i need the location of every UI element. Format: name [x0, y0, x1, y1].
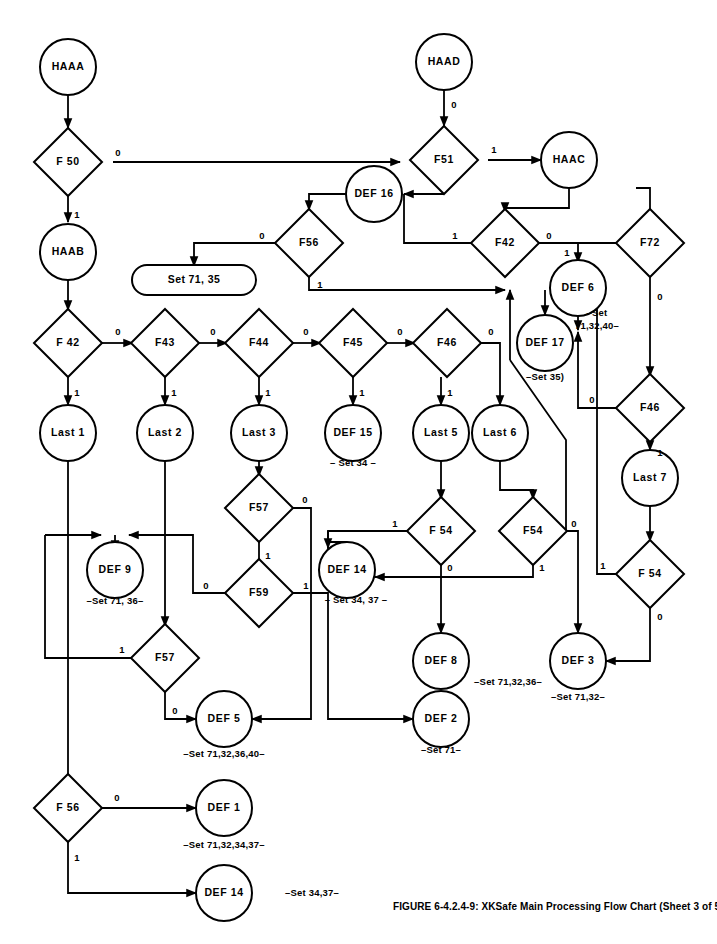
el-f43-1: 1	[171, 387, 177, 398]
ann-def15: – Set 34 –	[330, 457, 376, 468]
el-f56t-1: 1	[317, 279, 323, 290]
node-label-haad: HAAD	[428, 55, 461, 67]
node-label-f42t: F42	[495, 236, 515, 248]
el-f54a-1: 1	[392, 518, 398, 529]
el-f42t-1: 1	[452, 230, 458, 241]
edge-f54c-riser	[597, 290, 617, 574]
flowchart-canvas: HAAAF 50HAABHAADF51HAACDEF 16F56Set 71, …	[0, 0, 717, 944]
node-label-f46a: F46	[437, 336, 457, 348]
node-label-last5: Last 5	[424, 426, 458, 438]
node-label-last3: Last 3	[242, 426, 276, 438]
el-f42-0: 0	[115, 326, 120, 337]
ann-def14b: –Set 34,37–	[285, 887, 339, 898]
node-label-f57a: F57	[249, 501, 269, 513]
el-f54a-0: 0	[447, 562, 452, 573]
node-label-f43: F43	[155, 336, 175, 348]
ann-def5: –Set 71,32,36,40–	[183, 748, 265, 759]
el-f59-0: 0	[203, 580, 208, 591]
figure-caption: FIGURE 6-4.2.4-9: XKSafe Main Processing…	[393, 901, 713, 912]
node-label-def3: DEF 3	[562, 654, 595, 666]
el-f46b-0: 0	[589, 394, 594, 405]
edge-f56top-riser	[309, 277, 505, 290]
el-f44-0: 0	[303, 326, 308, 337]
node-label-f46b: F46	[640, 401, 660, 413]
el-f54b-1: 1	[539, 562, 545, 573]
node-label-def14b: DEF 14	[204, 886, 243, 898]
el-f42-1: 1	[74, 387, 80, 398]
node-label-f54b: F54	[523, 524, 543, 536]
node-label-def8: DEF 8	[425, 654, 458, 666]
node-label-f42: F 42	[56, 336, 79, 348]
node-label-set7135: Set 71, 35	[168, 273, 220, 285]
node-label-def15: DEF 15	[333, 426, 372, 438]
node-label-def6: DEF 6	[562, 281, 595, 293]
el-f45-1: 1	[359, 387, 365, 398]
edge-f42t-def16riser	[404, 194, 472, 243]
edge-f54b-def3	[566, 531, 578, 633]
ann-def8: –Set 71,32,36–	[474, 676, 542, 687]
node-layer	[34, 34, 684, 921]
el-f72-1: 1	[564, 247, 570, 258]
el-f56b-1: 1	[74, 852, 80, 863]
ann-def14a: – Set 34, 37 –	[325, 594, 387, 605]
el-f51-1: 1	[491, 144, 497, 155]
el-f44-1: 1	[265, 387, 271, 398]
node-label-haab: HAAB	[52, 245, 85, 257]
node-label-f45: F45	[343, 336, 363, 348]
node-label-def2: DEF 2	[425, 712, 458, 724]
node-label-def14a: DEF 14	[327, 563, 366, 575]
el-f42t-0: 0	[546, 230, 551, 241]
node-label-f54a: F 54	[429, 524, 452, 536]
node-label-def5: DEF 5	[208, 712, 241, 724]
edge-f72-topstub	[636, 188, 650, 212]
el-f43-0: 0	[210, 326, 215, 337]
el-f56t-0: 0	[259, 230, 264, 241]
edge-f42t-def6	[538, 243, 578, 262]
node-label-def1: DEF 1	[208, 801, 241, 813]
el-f50-0: 0	[115, 147, 120, 158]
node-label-f57b: F57	[155, 651, 175, 663]
node-label-def9: DEF 9	[99, 563, 132, 575]
edge-f54a-def14a-b	[328, 531, 347, 542]
edge-f54c-def3	[606, 607, 650, 661]
ann-def2: –Set 71–	[421, 744, 461, 755]
node-label-f56t: F56	[299, 236, 319, 248]
el-f56b-0: 0	[114, 792, 119, 803]
node-label-f54c: F 54	[638, 567, 661, 579]
node-label-f59: F59	[249, 586, 269, 598]
node-label-last6: Last 6	[483, 426, 517, 438]
node-label-f56b: F 56	[56, 801, 79, 813]
el-f54c-1: 1	[600, 560, 606, 571]
node-label-last7: Last 7	[633, 471, 667, 483]
el-haad-0: 0	[451, 99, 456, 110]
el-f57b-0: 0	[172, 705, 177, 716]
node-label-f50: F 50	[56, 155, 79, 167]
el-f45-0: 0	[397, 326, 402, 337]
el-f72-0: 0	[657, 291, 662, 302]
node-label-last2: Last 2	[148, 426, 182, 438]
node-label-def17: DEF 17	[525, 336, 564, 348]
edge-last6-f54b	[500, 461, 533, 499]
flowchart-page: HAAAF 50HAABHAADF51HAACDEF 16F56Set 71, …	[0, 0, 717, 944]
edge-layer	[45, 90, 650, 893]
el-f46a-1: 1	[447, 387, 453, 398]
node-label-haaa: HAAA	[52, 60, 85, 72]
edge-f56b-def14b	[68, 841, 196, 893]
el-f57b-1: 1	[119, 644, 125, 655]
node-label-haac: HAAC	[553, 153, 586, 165]
el-f57a-1: 1	[265, 550, 271, 561]
edge-def16-f56top	[309, 194, 346, 210]
edge-haac-f42t	[505, 188, 569, 212]
ann-def17: –Set 35)	[526, 371, 564, 382]
edge-f56top-set7135	[194, 243, 276, 266]
ann-def6: –Set	[587, 307, 609, 318]
edge-f57b-def5	[165, 691, 196, 719]
node-label-f51: F51	[434, 153, 454, 165]
node-label-f44: F44	[249, 336, 269, 348]
el-f46b-1: 1	[657, 447, 663, 458]
ann-def9: –Set 71, 36–	[87, 595, 144, 606]
edge-f46a-last6	[480, 343, 500, 405]
el-f46a-0: 0	[488, 326, 493, 337]
edge-f54b-def14a	[375, 564, 533, 577]
el-f50-1: 1	[74, 209, 80, 220]
